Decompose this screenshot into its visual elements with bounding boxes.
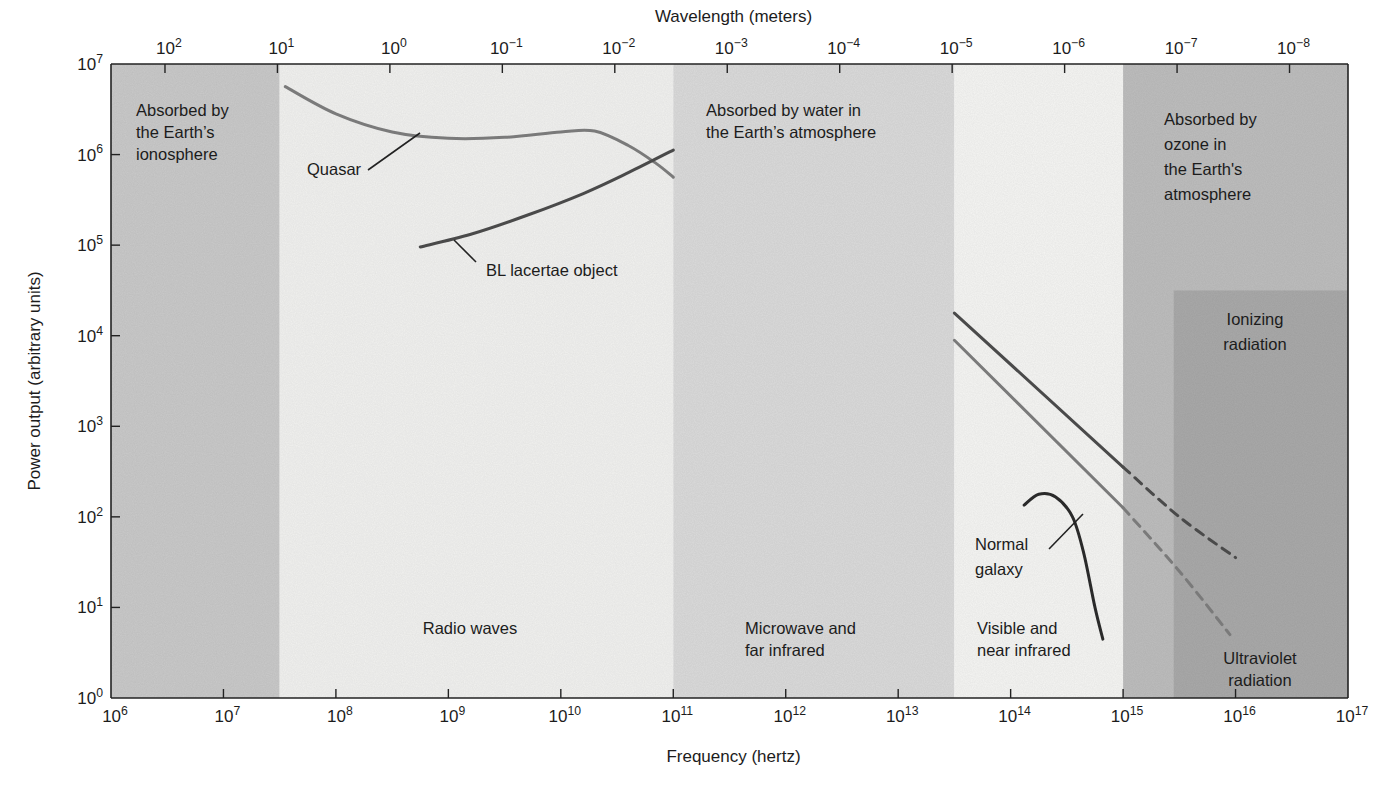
wavelength-tick-label: 10−4 [827,36,860,58]
visible-near-infrared-label-line: Visible and [977,619,1057,637]
x-tick-label: 1014 [998,704,1031,726]
wavelength-tick-label-base: 10 [1277,39,1296,58]
wavelength-tick-label-exponent: 2 [175,36,182,50]
y-tick-label-base: 10 [77,327,96,346]
wavelength-tick-label-base: 10 [602,39,621,58]
x-tick-label-exponent: 8 [346,704,353,718]
wavelength-tick-label-base: 10 [1165,39,1184,58]
water-absorption-label-line: Absorbed by water in [706,101,861,119]
y-tick-label: 101 [77,595,103,617]
x-tick-label-exponent: 15 [1130,704,1144,718]
microwave-far-infrared-label-line: far infrared [745,641,825,659]
x-tick-label: 1015 [1111,704,1144,726]
ultraviolet-radiation-label-line: radiation [1228,671,1291,689]
normal-galaxy-label-line: galaxy [975,560,1023,578]
x-tick-label-exponent: 16 [1242,704,1256,718]
wavelength-tick-label-exponent: −7 [1184,36,1198,50]
y-tick-label: 105 [77,233,103,255]
x-tick-label-base: 10 [661,707,680,726]
wavelength-tick-label: 10−5 [940,36,973,58]
y-tick-label-exponent: 6 [96,142,103,156]
x-tick-label-exponent: 9 [458,704,465,718]
x-tick-label: 1017 [1336,704,1369,726]
ozone-absorption-label-line: ozone in [1164,135,1226,153]
wavelength-tick-label: 100 [381,36,407,58]
top-axis-title: Wavelength (meters) [655,7,812,26]
y-tick-label-exponent: 1 [96,595,103,609]
ozone-absorption-label-line: Absorbed by [1164,110,1257,128]
wavelength-tick-label-exponent: −5 [959,36,973,50]
ionosphere-label-line: ionosphere [136,145,218,163]
wavelength-tick-label-base: 10 [1052,39,1071,58]
visible-near-infrared-label-line: near infrared [977,641,1071,659]
y-tick-label-base: 10 [77,598,96,617]
wavelength-tick-label-base: 10 [269,39,288,58]
wavelength-tick-label-base: 10 [156,39,175,58]
ionizing-radiation-label-line: Ionizing [1227,310,1284,328]
ionosphere-label-line: Absorbed by [136,101,229,119]
wavelength-tick-label-base: 10 [827,39,846,58]
wavelength-tick-label: 10−8 [1277,36,1310,58]
y-tick-label-base: 10 [77,689,96,708]
x-tick-label: 1016 [1223,704,1256,726]
x-tick-label-base: 10 [327,707,346,726]
wavelength-tick-label: 10−3 [715,36,748,58]
x-tick-label-base: 10 [439,707,458,726]
x-tick-label: 1012 [773,704,806,726]
quasar-label: Quasar [307,160,362,178]
wavelength-tick-label-exponent: −6 [1071,36,1085,50]
y-tick-label-exponent: 5 [96,233,103,247]
paper-texture [111,64,1348,698]
x-tick-label: 1010 [549,704,582,726]
x-tick-label-base: 10 [886,707,905,726]
texture-overlay [111,64,1348,698]
ultraviolet-radiation-label-line: Ultraviolet [1223,649,1297,667]
x-tick-label: 109 [439,704,465,726]
x-tick-label-exponent: 11 [680,704,693,718]
y-tick-label-exponent: 4 [96,324,103,338]
y-tick-label: 106 [77,142,103,164]
x-tick-label: 106 [102,704,128,726]
y-tick-label-base: 10 [77,417,96,436]
x-tick-label-exponent: 17 [1355,704,1369,718]
wavelength-tick-label-exponent: −2 [621,36,635,50]
wavelength-tick-label-exponent: −8 [1296,36,1310,50]
x-tick-label-exponent: 6 [121,704,128,718]
x-tick-label-exponent: 10 [567,704,581,718]
y-tick-label-base: 10 [77,146,96,165]
microwave-far-infrared-label-line: Microwave and [745,619,856,637]
x-tick-label-exponent: 7 [234,704,241,718]
x-tick-label: 108 [327,704,353,726]
wavelength-tick-label-exponent: −4 [846,36,860,50]
x-tick-label-base: 10 [998,707,1017,726]
wavelength-tick-label-exponent: −1 [509,36,523,50]
x-tick-label-base: 10 [773,707,792,726]
y-tick-label-exponent: 3 [96,414,103,428]
wavelength-tick-label: 10−7 [1165,36,1198,58]
y-tick-label-exponent: 0 [96,686,103,700]
wavelength-tick-label: 10−6 [1052,36,1085,58]
y-tick-label: 104 [77,324,103,346]
spectrum-chart: 1061071081091010101110121013101410151016… [0,0,1379,789]
x-tick-label-exponent: 14 [1017,704,1031,718]
x-tick-label: 107 [215,704,241,726]
water-absorption-label-line: the Earth’s atmosphere [706,123,876,141]
wavelength-tick-label-exponent: −3 [734,36,748,50]
wavelength-tick-label-base: 10 [381,39,400,58]
wavelength-tick-label: 102 [156,36,182,58]
x-tick-label-base: 10 [102,707,121,726]
x-tick-label-base: 10 [215,707,234,726]
ionosphere-label-line: the Earth’s [136,123,215,141]
ionizing-radiation-label-line: radiation [1223,335,1286,353]
y-tick-label: 107 [77,52,103,74]
normal-galaxy-label-line: Normal [975,535,1028,553]
y-tick-label: 102 [77,505,103,527]
y-tick-label-base: 10 [77,236,96,255]
wavelength-tick-label-base: 10 [940,39,959,58]
x-tick-label-base: 10 [1336,707,1355,726]
wavelength-tick-label: 101 [269,36,295,58]
x-tick-label: 1011 [661,704,693,726]
x-tick-label-base: 10 [549,707,568,726]
left-axis-title: Power output (arbitrary units) [25,271,44,490]
wavelength-tick-label-exponent: 1 [287,36,294,50]
